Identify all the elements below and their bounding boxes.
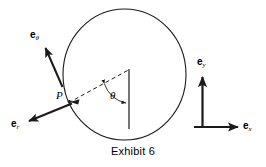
exhibit-6-diagram	[0, 0, 266, 167]
point-p-marker	[68, 100, 71, 103]
label-angle-theta: θ	[110, 90, 115, 101]
figure-caption: Exhibit 6	[0, 145, 266, 157]
label-e-theta-subscript: θ	[36, 34, 39, 42]
label-e-x-subscript: x	[249, 125, 252, 133]
label-point-p: P	[56, 90, 63, 101]
label-e-y-subscript: y	[203, 61, 206, 69]
main-circle	[63, 9, 186, 140]
label-e-r: er	[11, 118, 19, 131]
arrow-e-theta	[46, 48, 63, 87]
label-e-r-subscript: r	[17, 123, 20, 131]
exhibit-figure-container: eθ er ey ex P θ Exhibit 6	[0, 0, 266, 167]
label-e-y: ey	[197, 56, 206, 69]
label-e-x: ex	[243, 120, 252, 133]
dashed-radius-to-p	[70, 71, 128, 103]
arrow-e-r	[29, 104, 72, 122]
label-e-theta: eθ	[30, 29, 39, 42]
